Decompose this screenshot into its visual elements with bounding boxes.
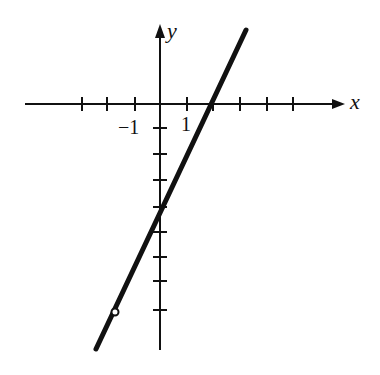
coordinate-plane — [0, 0, 380, 375]
x-tick-label-1: 1 — [181, 113, 191, 136]
y-axis-label: y — [167, 18, 177, 44]
graph-figure: y x 1 −1 — [0, 0, 380, 375]
y-tick-label-neg1: −1 — [118, 116, 139, 139]
x-axis-arrow-icon — [332, 99, 345, 109]
open-circle-point — [112, 309, 119, 316]
y-axis-arrow-icon — [155, 24, 165, 38]
graph-line — [96, 30, 246, 349]
x-axis-label: x — [350, 89, 360, 115]
